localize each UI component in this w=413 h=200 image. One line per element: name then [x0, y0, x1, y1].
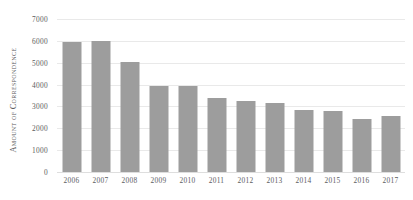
bar-slot — [289, 19, 318, 172]
bar-slot — [86, 19, 115, 172]
bar[interactable] — [381, 116, 400, 172]
x-tick-label: 2012 — [238, 176, 254, 185]
axis-baseline — [57, 172, 405, 173]
bar-slot — [347, 19, 376, 172]
bar-slot — [318, 19, 347, 172]
bar-chart: Amount of Correspondence 010002000300040… — [0, 0, 413, 200]
bar[interactable] — [207, 98, 226, 172]
bar[interactable] — [149, 86, 168, 172]
x-tick-label: 2014 — [296, 176, 312, 185]
bar[interactable] — [323, 111, 342, 172]
y-tick-label: 1000 — [32, 146, 48, 155]
y-tick-label: 5000 — [32, 58, 48, 67]
bar[interactable] — [62, 42, 81, 172]
bar-slot — [260, 19, 289, 172]
bar-slot — [376, 19, 405, 172]
x-tick-label: 2008 — [122, 176, 138, 185]
x-tick-label: 2017 — [383, 176, 399, 185]
bar[interactable] — [265, 103, 284, 172]
y-tick-label: 0 — [44, 168, 48, 177]
bar[interactable] — [352, 119, 371, 172]
x-axis-tick-labels: 2006200720082009201020112012201320142015… — [57, 176, 405, 190]
y-tick-label: 7000 — [32, 15, 48, 24]
bar[interactable] — [120, 62, 139, 172]
y-tick-label: 6000 — [32, 36, 48, 45]
bar-series — [57, 19, 405, 172]
x-tick-label: 2007 — [93, 176, 109, 185]
bar[interactable] — [236, 101, 255, 172]
bar-slot — [115, 19, 144, 172]
x-tick-label: 2009 — [151, 176, 167, 185]
bar[interactable] — [294, 110, 313, 172]
y-tick-label: 2000 — [32, 124, 48, 133]
bar-slot — [231, 19, 260, 172]
x-tick-label: 2016 — [354, 176, 370, 185]
x-tick-label: 2006 — [64, 176, 80, 185]
x-tick-label: 2011 — [209, 176, 225, 185]
y-tick-label: 4000 — [32, 80, 48, 89]
bar-slot — [202, 19, 231, 172]
bar[interactable] — [178, 86, 197, 172]
bar-slot — [57, 19, 86, 172]
x-tick-label: 2010 — [180, 176, 196, 185]
bar-slot — [144, 19, 173, 172]
y-tick-label: 3000 — [32, 102, 48, 111]
x-tick-label: 2015 — [325, 176, 341, 185]
y-axis-tick-labels: 01000200030004000500060007000 — [0, 19, 54, 172]
bar[interactable] — [91, 41, 110, 172]
bar-slot — [173, 19, 202, 172]
x-tick-label: 2013 — [267, 176, 283, 185]
